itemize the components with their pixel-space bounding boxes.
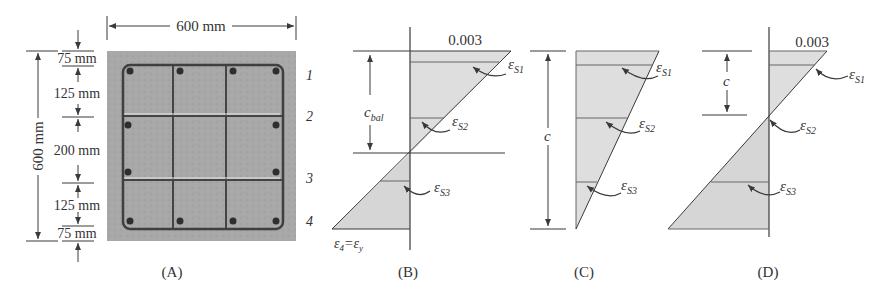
top-strain-label: 0.003	[795, 34, 829, 50]
layer-label-2: 2	[306, 109, 313, 124]
strain-s1-label: εS1	[656, 59, 672, 78]
strain-s3-label: εS3	[621, 177, 637, 196]
spacing-label-2: 125 mm	[54, 86, 100, 101]
width-label: 600 mm	[176, 18, 226, 34]
strain-s3-label: εS3	[434, 179, 450, 198]
strain-diagram-figure: 600 mm 1 2 3 4 600 mm	[0, 0, 887, 300]
strain-s2-label: εS2	[452, 113, 468, 132]
strain-s2-label: εS2	[800, 117, 816, 136]
layer-label-4: 4	[306, 214, 313, 229]
panel-b-balanced-strain: cbal 0.003 εS1 εS2 εS3 ε4=εy (B)	[332, 27, 524, 281]
concrete-section	[107, 51, 296, 241]
height-label: 600 mm	[30, 121, 46, 171]
spacing-label-5: 75 mm	[57, 226, 96, 241]
layer-label-3: 3	[305, 171, 313, 186]
c-bal-label: cbal	[364, 104, 384, 123]
caption-b: (B)	[398, 264, 418, 281]
width-dimension: 600 mm	[107, 16, 296, 40]
strain-s3-label: εS3	[780, 178, 796, 197]
top-strain-label: 0.003	[448, 32, 482, 48]
panel-d-strain: c 0.003 εS1 εS2 εS3 (D)	[668, 27, 865, 281]
panel-a-section: 600 mm 1 2 3 4 600 mm	[26, 16, 313, 281]
caption-a: (A)	[162, 264, 183, 281]
c-depth-label: c	[723, 73, 730, 89]
spacing-label-4: 125 mm	[54, 198, 100, 213]
strain-s2-label: εS2	[639, 115, 655, 134]
strain-s1-label: εS1	[849, 66, 865, 85]
caption-d: (D)	[758, 264, 779, 281]
caption-c: (C)	[574, 264, 594, 281]
layer-label-1: 1	[306, 68, 313, 83]
panel-c-strain: c εS1 εS2 εS3 (C)	[530, 51, 672, 281]
spacing-label-3: 200 mm	[54, 143, 100, 158]
strain-s1-label: εS1	[508, 56, 524, 75]
c-depth-label: c	[544, 128, 551, 144]
spacing-label-1: 75 mm	[57, 51, 96, 66]
eps4-eq-epsy-label: ε4=εy	[334, 236, 363, 253]
